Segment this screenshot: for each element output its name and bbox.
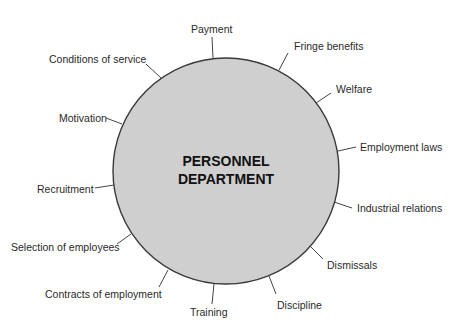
connector-recruitment <box>95 185 114 188</box>
label-motivation: Motivation <box>59 112 107 124</box>
label-selection-of-employees: Selection of employees <box>11 241 120 253</box>
label-discipline: Discipline <box>277 299 322 311</box>
label-training: Training <box>190 306 228 318</box>
connector-training <box>212 284 214 304</box>
center-title-line2: DEPARTMENT <box>178 171 275 187</box>
label-payment: Payment <box>191 23 233 35</box>
label-employment-laws: Employment laws <box>360 141 442 153</box>
connector-motivation <box>106 118 122 124</box>
personnel-diagram: PERSONNEL DEPARTMENT Payment Fringe bene… <box>0 0 458 333</box>
connector-fringe-benefits <box>279 53 288 70</box>
label-conditions-of-service: Conditions of service <box>49 53 147 65</box>
connector-employment-laws <box>338 147 356 151</box>
label-dismissals: Dismissals <box>327 259 377 271</box>
connector-welfare <box>316 93 331 103</box>
label-fringe-benefits: Fringe benefits <box>294 40 363 52</box>
connector-dismissals <box>310 246 323 259</box>
label-industrial-relations: Industrial relations <box>357 202 442 214</box>
label-recruitment: Recruitment <box>37 183 94 195</box>
connector-conditions-of-service <box>146 64 161 78</box>
center-title-line1: PERSONNEL <box>182 153 270 169</box>
label-welfare: Welfare <box>336 83 372 95</box>
connector-industrial-relations <box>334 202 352 208</box>
connector-discipline <box>269 276 276 294</box>
label-contracts-of-employment: Contracts of employment <box>45 288 162 300</box>
connector-payment <box>212 37 213 58</box>
connector-contracts-of-employment <box>159 270 168 287</box>
